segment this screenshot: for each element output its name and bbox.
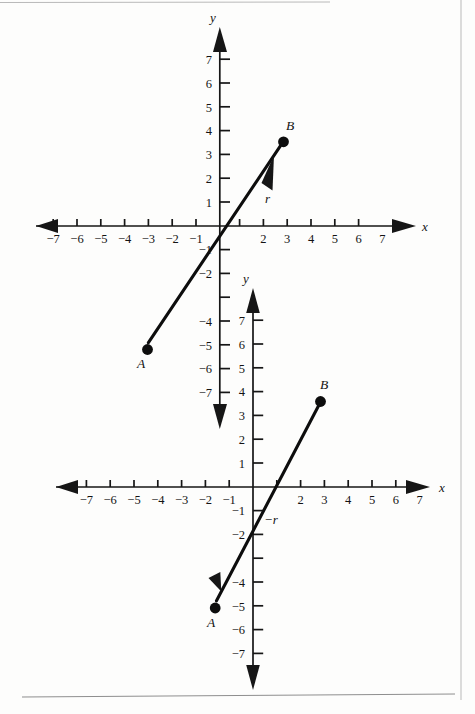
upper-y-ticklabel: 3 xyxy=(206,148,212,162)
lower-y-axis-up-arrowhead xyxy=(246,288,260,313)
upper-y-ticklabel: −5 xyxy=(199,339,212,353)
upper-y-ticklabel: 1 xyxy=(206,196,212,210)
lower-y-ticklabel: −2 xyxy=(232,528,245,542)
lower-x-ticklabel: 2 xyxy=(297,493,303,507)
page-bottom-rule xyxy=(22,694,455,697)
lower-y-axis-label: y xyxy=(241,271,249,286)
lower-x-ticklabel: 4 xyxy=(345,493,352,507)
lower-x-ticklabel: 6 xyxy=(393,493,399,507)
lower-vector-minus-r-arrowhead xyxy=(209,572,222,592)
lower-x-ticklabel: 7 xyxy=(416,493,422,507)
page-top-rule xyxy=(0,2,330,3)
upper-y-ticklabel: 5 xyxy=(206,101,212,115)
upper-x-ticklabel: −3 xyxy=(142,232,155,246)
lower-point-a-label: A xyxy=(206,615,216,630)
lower-vector-minus-r-label: −r⃗ xyxy=(264,512,288,527)
lower-y-ticklabel: −5 xyxy=(232,600,245,614)
upper-x-axis-left-arrowhead xyxy=(36,219,58,233)
lower-point-a-dot xyxy=(210,603,221,614)
lower-x-axis-left-arrowhead xyxy=(56,480,78,494)
upper-point-b-dot xyxy=(278,136,289,147)
lower-point-b-label: B xyxy=(320,377,328,392)
lower-x-ticklabel: 3 xyxy=(321,493,327,507)
lower-x-ticks xyxy=(86,480,395,487)
upper-x-ticklabel: −4 xyxy=(118,232,132,246)
upper-x-ticklabel: 4 xyxy=(308,232,315,246)
lower-x-ticklabel: −2 xyxy=(199,493,212,507)
figure-canvas: −7 −6 −5 −4 −3 −2 −1 2 3 4 5 6 7 x xyxy=(0,0,475,714)
upper-x-axis-label: x xyxy=(421,219,428,234)
lower-y-ticklabel: −4 xyxy=(232,576,246,590)
upper-x-ticklabel: 2 xyxy=(260,232,266,246)
lower-y-ticklabel: 6 xyxy=(239,338,245,352)
lower-y-axis: 7 6 5 4 3 2 1 −1 −2 −4 −5 −6 −7 y xyxy=(232,271,264,690)
lower-y-ticklabel: −1 xyxy=(232,504,245,518)
upper-y-axis: 7 6 5 4 3 2 1 −1 −2 −4 −5 −6 −7 y xyxy=(199,10,230,429)
lower-graph: −7 −6 −5 −4 −3 −2 −1 2 3 4 5 6 7 x xyxy=(56,271,445,690)
upper-y-axis-down-arrowhead xyxy=(213,404,227,429)
upper-point-a-dot xyxy=(142,344,153,355)
lower-y-ticklabel: 7 xyxy=(239,314,245,328)
upper-x-ticklabel: 5 xyxy=(332,232,338,246)
lower-x-ticklabel: 5 xyxy=(369,493,375,507)
upper-x-ticklabel: −2 xyxy=(166,232,179,246)
upper-y-ticklabel: 2 xyxy=(206,172,212,186)
upper-point-a-label: A xyxy=(136,356,146,371)
lower-y-ticklabel: 2 xyxy=(239,433,245,447)
upper-x-axis-right-arrowhead xyxy=(392,219,416,233)
lower-y-ticklabel: 4 xyxy=(239,385,246,399)
upper-x-axis: −7 −6 −5 −4 −3 −2 −1 2 3 4 5 6 7 x xyxy=(36,219,428,246)
upper-x-ticklabel: −7 xyxy=(47,232,60,246)
lower-y-ticklabel: 5 xyxy=(239,362,245,376)
lower-y-axis-down-arrowhead xyxy=(246,665,260,690)
upper-x-ticklabel: 3 xyxy=(284,232,290,246)
upper-x-ticks xyxy=(53,219,358,226)
lower-x-ticklabel: −4 xyxy=(151,493,165,507)
upper-y-ticklabel: −6 xyxy=(199,362,212,376)
lower-point-b-dot xyxy=(315,396,326,407)
upper-x-ticklabel: 6 xyxy=(355,232,361,246)
upper-point-b-label: B xyxy=(286,118,294,133)
lower-x-ticklabel: −5 xyxy=(127,493,140,507)
upper-y-ticklabel: −2 xyxy=(199,267,212,281)
lower-y-ticklabel: −6 xyxy=(232,623,245,637)
lower-x-ticklabel: −3 xyxy=(175,493,188,507)
lower-x-axis-label: x xyxy=(438,480,445,495)
lower-y-ticklabel: 3 xyxy=(239,409,245,423)
upper-y-ticklabel: 6 xyxy=(206,77,212,91)
lower-x-axis: −7 −6 −5 −4 −3 −2 −1 2 3 4 5 6 7 x xyxy=(56,480,445,507)
upper-y-axis-up-arrowhead xyxy=(213,27,227,52)
upper-x-ticklabel: 7 xyxy=(379,232,385,246)
upper-y-axis-label: y xyxy=(208,10,216,25)
upper-vector-r-label: r⃗ xyxy=(265,191,280,206)
vector-diagram: −7 −6 −5 −4 −3 −2 −1 2 3 4 5 6 7 x xyxy=(0,0,475,714)
lower-y-ticklabel: −7 xyxy=(232,647,245,661)
upper-y-ticklabel: −7 xyxy=(199,386,212,400)
lower-x-axis-right-arrowhead xyxy=(406,480,430,494)
lower-x-ticklabel: −6 xyxy=(104,493,117,507)
upper-y-ticklabel: 4 xyxy=(206,124,213,138)
upper-x-ticklabel: −6 xyxy=(70,232,83,246)
upper-y-ticklabel: 7 xyxy=(206,53,212,67)
upper-graph: −7 −6 −5 −4 −3 −2 −1 2 3 4 5 6 7 x xyxy=(36,10,428,429)
lower-y-ticklabel: 1 xyxy=(239,457,245,471)
upper-y-ticklabel: −4 xyxy=(199,315,213,329)
lower-x-ticklabel: −7 xyxy=(80,493,93,507)
upper-x-ticklabel: −5 xyxy=(94,232,107,246)
